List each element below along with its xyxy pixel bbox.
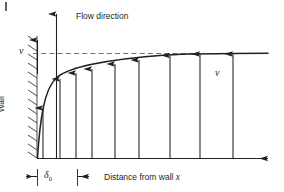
velocity-label-freestream: v (215, 68, 219, 78)
boundary-layer-thickness-dimension (26, 169, 89, 186)
distance-axis-variable: x (176, 172, 180, 182)
delta-subscript: 0 (49, 175, 52, 182)
wall-label: Wall (0, 96, 5, 112)
flow-direction-label: Flow direction (76, 12, 128, 21)
boundary-layer-thickness-label: δ0 (44, 170, 52, 183)
distance-axis-text: Distance from wall (104, 172, 176, 182)
distance-axis-label: Distance from wall x (104, 173, 180, 183)
figure-canvas (0, 0, 284, 192)
boundary-layer-figure: Flow direction v v Wall δ0 Distance from… (0, 0, 284, 192)
wall-hatching (28, 36, 37, 158)
velocity-label-wall: v (19, 46, 23, 56)
